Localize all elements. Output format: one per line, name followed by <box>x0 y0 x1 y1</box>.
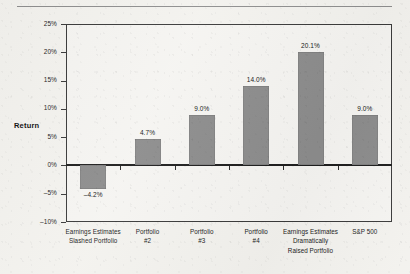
y-axis-tick <box>61 24 66 25</box>
y-axis-tick <box>61 52 66 53</box>
category-tick <box>283 166 284 170</box>
bar-value-label: –4.2% <box>70 192 116 199</box>
y-axis-tick-label: 15% <box>24 77 57 84</box>
y-axis-tick <box>61 222 66 223</box>
y-axis-line <box>66 24 67 222</box>
bar-value-label: 4.7% <box>125 130 171 137</box>
category-tick <box>175 166 176 170</box>
y-axis-tick-label: –5% <box>24 190 57 197</box>
y-axis-tick <box>61 194 66 195</box>
y-axis-title: Return <box>14 121 39 130</box>
y-axis-tick-label: –10% <box>24 219 57 226</box>
y-axis-tick-label: 20% <box>24 49 57 56</box>
bar <box>298 52 324 166</box>
bar-value-label: 9.0% <box>179 106 225 113</box>
x-axis-label-line: Dramatically <box>279 236 343 245</box>
bar-chart: Return 25%20%15%10%5%0%–5%–10% –4.2%4.7%… <box>0 0 410 274</box>
bar-value-label: 20.1% <box>288 43 334 50</box>
bar <box>80 165 106 189</box>
category-tick <box>120 166 121 170</box>
y-axis-tick <box>61 137 66 138</box>
y-axis-tick <box>61 109 66 110</box>
x-axis-label-line: S&P 500 <box>333 227 397 236</box>
bar-value-label: 14.0% <box>233 77 279 84</box>
y-axis-tick-label: 5% <box>24 134 57 141</box>
bar-value-label: 9.0% <box>342 106 388 113</box>
y-axis-tick-label: 25% <box>24 21 57 28</box>
y-axis-tick-label: 10% <box>24 105 57 112</box>
y-axis-tick-label: 0% <box>24 162 57 169</box>
header-rule <box>17 6 392 7</box>
x-axis-category-label: S&P 500 <box>333 227 397 236</box>
category-tick <box>229 166 230 170</box>
bar <box>352 115 378 166</box>
y-axis-tick <box>61 81 66 82</box>
bar <box>135 139 161 166</box>
category-tick <box>338 166 339 170</box>
bar <box>189 115 215 166</box>
bar <box>243 86 269 165</box>
x-axis-label-line: Raised Portfolio <box>279 246 343 255</box>
